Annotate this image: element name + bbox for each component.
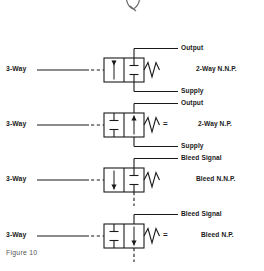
row1-input-label: 3-Way	[6, 66, 26, 73]
row4-equals-sign: =	[163, 231, 168, 239]
row3-type-label: Bleed N.N.P.	[196, 176, 236, 183]
row4-bleed-label: Bleed Signal	[181, 211, 222, 218]
row2-equals-sign: =	[163, 120, 168, 128]
row2-type-label: 2-Way N.P.	[198, 121, 232, 128]
row1-type-label: 2-Way N.N.P.	[196, 66, 237, 73]
row3-bleed-label: Bleed Signal	[181, 155, 222, 162]
row3-left-arrow-head	[111, 185, 116, 190]
row4-right-arrow-head	[131, 241, 136, 246]
row4-type-label: Bleed N.P.	[201, 232, 234, 239]
row2-output-label: Output	[181, 100, 203, 107]
top-partial-glyph	[126, 0, 140, 11]
row3-input-label: 3-Way	[6, 176, 26, 183]
row2-input-label: 3-Way	[6, 121, 26, 128]
figure-caption: Figure 10	[6, 250, 37, 257]
row1-output-label: Output	[181, 45, 203, 52]
top-glyph-path	[126, 0, 140, 9]
row2-supply-label: Supply	[181, 143, 204, 150]
valve-schematic-figure: 3-Way Output Supply 2-Way N.N.P. 3-Way O…	[0, 0, 264, 271]
row1-left-arrow-head	[111, 61, 116, 66]
row3-spring-actuator	[144, 173, 160, 188]
row4-input-label: 3-Way	[6, 232, 26, 239]
row1-spring-actuator	[144, 63, 160, 78]
row1-supply-label: Supply	[181, 88, 204, 95]
row2-right-arrow-head	[131, 115, 136, 120]
row2-spring-actuator	[144, 118, 160, 133]
row4-spring-actuator	[144, 229, 160, 244]
